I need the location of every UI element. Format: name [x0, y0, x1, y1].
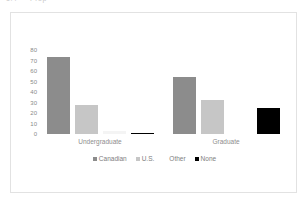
legend-item[interactable]: Canadian: [93, 155, 127, 162]
legend-item[interactable]: None: [195, 155, 217, 162]
bar[interactable]: [131, 133, 154, 134]
clipped-header-fragment-right: Prop: [30, 0, 47, 2]
legend-label: Canadian: [99, 155, 127, 162]
clipped-header-fragment-left: 1.4: [6, 0, 17, 2]
plot-area: 80706050403020100 UndergraduateGraduate …: [11, 13, 296, 192]
legend-item[interactable]: U.S.: [136, 155, 155, 162]
chart-object-frame[interactable]: 80706050403020100 UndergraduateGraduate …: [10, 12, 297, 193]
bar[interactable]: [103, 131, 126, 134]
legend-label: None: [201, 155, 217, 162]
legend-label: Other: [169, 155, 185, 162]
bar[interactable]: [47, 57, 70, 134]
legend-swatch-icon: [136, 157, 140, 161]
y-axis-tick-label: 70: [30, 58, 37, 64]
y-axis-tick-label: 10: [30, 121, 37, 127]
x-axis-category-label: Undergraduate: [78, 137, 121, 146]
legend-label: U.S.: [142, 155, 155, 162]
bar[interactable]: [173, 77, 196, 134]
x-axis-category-label: Graduate: [212, 137, 239, 146]
y-axis-tick-label: 30: [30, 100, 37, 106]
chart-legend: CanadianU.S.OtherNone: [11, 155, 298, 162]
bar[interactable]: [75, 105, 98, 134]
legend-swatch-icon: [93, 157, 97, 161]
legend-swatch-icon: [163, 157, 167, 161]
legend-item[interactable]: Other: [163, 155, 185, 162]
x-axis-category-labels: UndergraduateGraduate: [37, 137, 289, 149]
legend-swatch-icon: [195, 157, 199, 161]
bar[interactable]: [201, 100, 224, 134]
y-axis-tick-label: 20: [30, 110, 37, 116]
y-axis: 80706050403020100: [17, 50, 37, 134]
clipped-header-text: 1.4 Prop: [0, 0, 308, 9]
y-axis-tick-label: 40: [30, 89, 37, 95]
y-axis-tick-label: 50: [30, 79, 37, 85]
bars-layer: [37, 50, 289, 134]
y-axis-tick-label: 60: [30, 68, 37, 74]
bar[interactable]: [257, 108, 280, 134]
y-axis-tick-label: 80: [30, 47, 37, 53]
